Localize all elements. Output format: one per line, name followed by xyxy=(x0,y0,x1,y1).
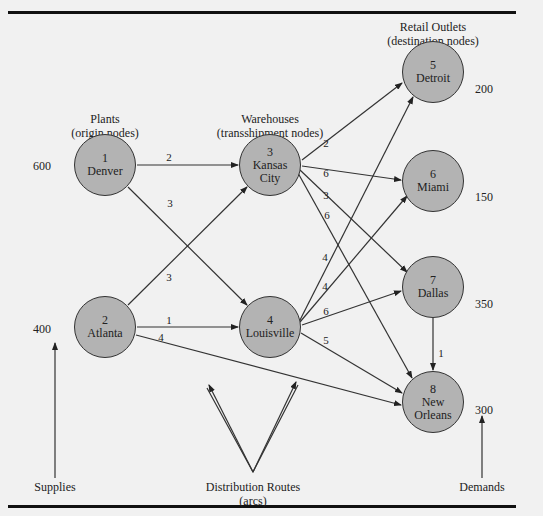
cost-1-4: 3 xyxy=(167,197,173,209)
demand-detroit: 200 xyxy=(475,82,493,97)
cost-4-7: 6 xyxy=(323,305,329,317)
node-atlanta: 2 Atlanta xyxy=(74,296,136,358)
cost-2-8: 4 xyxy=(158,331,164,343)
arc-3-8 xyxy=(298,173,412,378)
node-name-line1: New xyxy=(422,396,445,409)
node-name: Miami xyxy=(417,181,449,194)
cost-4-5: 4 xyxy=(322,251,328,263)
node-new-orleans: 8 New Orleans xyxy=(402,371,464,433)
routes-pointer xyxy=(207,385,298,472)
node-id: 8 xyxy=(430,383,436,396)
routes-subtitle: (arcs) xyxy=(206,494,300,508)
node-miami: 6 Miami xyxy=(402,150,464,212)
node-name-line1: Kansas xyxy=(253,159,288,172)
cost-3-8: 6 xyxy=(324,209,330,221)
node-id: 3 xyxy=(267,146,273,159)
cost-3-5: 2 xyxy=(323,137,329,149)
demand-dallas: 350 xyxy=(475,297,493,312)
node-denver: 1 Denver xyxy=(74,134,136,196)
node-name-line2: Orleans xyxy=(414,409,451,422)
transshipment-network-diagram: Plants (origin nodes) Warehouses (transs… xyxy=(0,0,543,516)
supply-atlanta: 400 xyxy=(33,322,51,337)
arc-4-8 xyxy=(301,333,402,393)
node-name: Louisville xyxy=(246,327,295,340)
node-name: Atlanta xyxy=(87,327,122,340)
node-dallas: 7 Dallas xyxy=(402,256,464,318)
node-kansas-city: 3 Kansas City xyxy=(239,134,301,196)
demand-new-orleans: 300 xyxy=(475,403,493,418)
node-detroit: 5 Detroit xyxy=(402,41,464,103)
cost-2-3: 3 xyxy=(166,271,172,283)
node-name-line2: City xyxy=(260,172,281,185)
node-name: Dallas xyxy=(418,287,449,300)
arc-4-7 xyxy=(302,291,401,325)
cost-3-6: 6 xyxy=(323,167,329,179)
arc-3-7 xyxy=(300,170,407,272)
warehouses-title: Warehouses xyxy=(217,112,323,126)
supply-denver: 600 xyxy=(33,159,51,174)
node-name: Detroit xyxy=(416,72,450,85)
arc-3-6 xyxy=(302,166,401,180)
supplies-label: Supplies xyxy=(34,480,75,494)
cost-1-3: 2 xyxy=(166,151,172,163)
demand-miami: 150 xyxy=(475,190,493,205)
plants-title: Plants xyxy=(71,112,139,126)
node-louisville: 4 Louisville xyxy=(239,296,301,358)
routes-label: Distribution Routes (arcs) xyxy=(206,480,300,508)
demands-label: Demands xyxy=(459,480,504,494)
cost-7-8: 1 xyxy=(438,347,444,359)
cost-3-7: 3 xyxy=(323,189,329,201)
retail-title: Retail Outlets xyxy=(387,20,479,34)
cost-2-4: 1 xyxy=(166,314,172,326)
node-name: Denver xyxy=(87,165,122,178)
cost-4-6: 4 xyxy=(322,280,328,292)
routes-title: Distribution Routes xyxy=(206,480,300,494)
cost-4-8: 5 xyxy=(323,334,329,346)
